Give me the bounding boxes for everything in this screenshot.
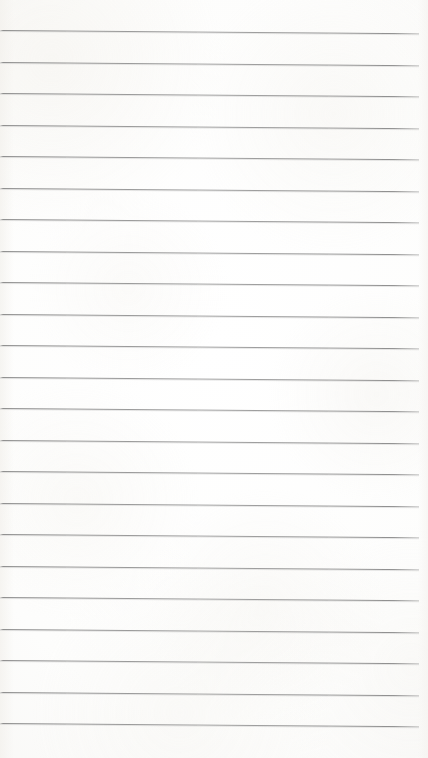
ruled-lines-layer xyxy=(0,0,428,758)
rule-line-17 xyxy=(0,534,419,538)
rule-line-18 xyxy=(0,566,419,570)
rule-line-4 xyxy=(0,125,419,129)
rule-line-9 xyxy=(0,282,419,286)
rule-line-12 xyxy=(0,377,419,381)
rule-line-2 xyxy=(0,62,419,66)
rule-line-3 xyxy=(0,93,419,97)
rule-line-16 xyxy=(0,503,419,507)
rule-line-14 xyxy=(0,440,419,444)
rule-line-15 xyxy=(0,471,419,475)
rule-line-21 xyxy=(0,660,419,664)
rule-line-6 xyxy=(0,188,419,192)
rule-line-7 xyxy=(0,219,419,223)
rule-line-8 xyxy=(0,251,419,255)
rule-line-1 xyxy=(0,30,419,34)
rule-line-10 xyxy=(0,314,419,318)
rule-line-11 xyxy=(0,345,419,349)
rule-line-22 xyxy=(0,692,419,696)
lined-paper-page xyxy=(0,0,428,758)
rule-line-19 xyxy=(0,597,419,601)
rule-line-5 xyxy=(0,156,419,160)
rule-line-13 xyxy=(0,408,419,412)
rule-line-23 xyxy=(0,723,419,727)
rule-line-20 xyxy=(0,629,419,633)
